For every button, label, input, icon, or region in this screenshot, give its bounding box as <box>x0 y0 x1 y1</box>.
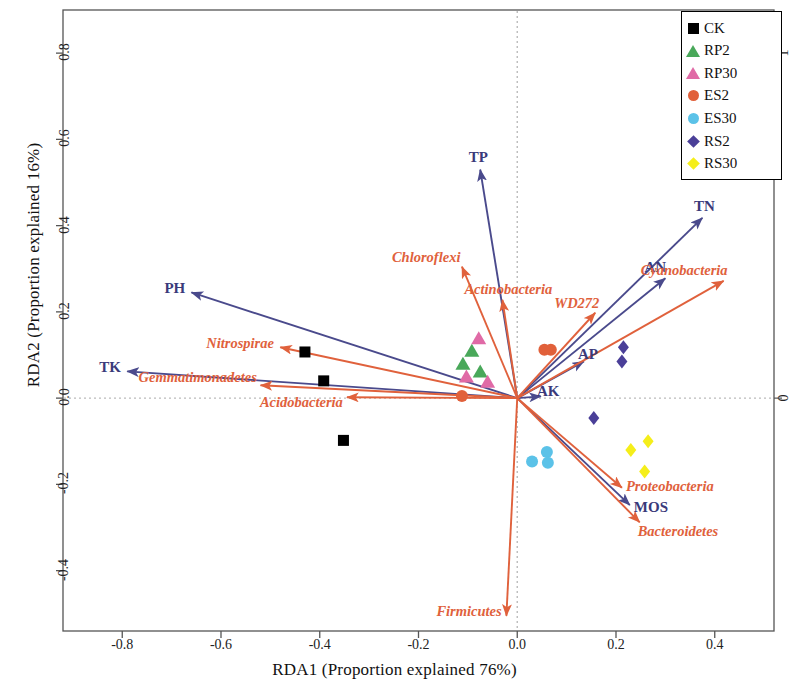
y-tick-label: 0.2 <box>56 302 72 320</box>
species-vector-label-bacteroidetes: Bacteroidetes <box>638 523 719 540</box>
species-vector-label-wd272: WD272 <box>554 295 599 312</box>
legend-marker-circle-icon <box>686 90 700 101</box>
species-vector-label-cyanobacteria: Cyanobacteria <box>641 262 728 279</box>
sample-point-rp2 <box>455 357 470 370</box>
sample-point-es2 <box>456 390 468 402</box>
sample-point-rp30 <box>471 331 486 344</box>
species-vector-label-nitrospirae: Nitrospirae <box>206 335 274 352</box>
sample-point-ck <box>299 346 310 357</box>
species-vector-label-gemmatimonadetes: Gemmatimonadetes <box>139 369 257 386</box>
species-vector-label-actinobacteria: Actinobacteria <box>464 281 552 298</box>
legend-item-rp30[interactable]: RP30 <box>686 62 737 84</box>
legend-item-es30[interactable]: ES30 <box>686 107 737 129</box>
legend-marker-triangle-icon <box>686 45 700 57</box>
rda-plot-canvas <box>0 0 789 695</box>
sample-point-rp2 <box>464 344 479 357</box>
sample-point-rs2 <box>588 411 599 425</box>
species-vector-label-acidobacteria: Acidobacteria <box>260 394 343 411</box>
env-vector-label-tk: TK <box>99 359 121 376</box>
legend-label: ES30 <box>704 111 737 126</box>
sample-point-rp30 <box>459 370 474 383</box>
y-tick-label: 0.8 <box>56 43 72 61</box>
x-axis-title: RDA1 (Proportion explained 76%) <box>0 660 789 680</box>
species-vector-label-chloroflexi: Chloroflexi <box>392 249 460 266</box>
sample-point-ck <box>338 435 349 446</box>
x-tick-label: -0.4 <box>309 637 331 653</box>
sample-point-rp2 <box>473 364 488 377</box>
env-vector-label-mos: MOS <box>634 499 668 516</box>
x-tick-label: -0.8 <box>111 637 133 653</box>
legend-marker-triangle-icon <box>686 67 700 79</box>
y-tick-label: 0.6 <box>56 130 72 148</box>
sample-point-rs30 <box>639 464 650 478</box>
sample-point-es30 <box>541 446 553 458</box>
y-tick-label: 0.4 <box>56 216 72 234</box>
legend-label: RP30 <box>704 66 737 81</box>
x-tick-label: -0.2 <box>407 637 429 653</box>
sample-point-rs30 <box>643 434 654 448</box>
sample-point-es2 <box>545 344 557 356</box>
sample-point-ck <box>318 375 329 386</box>
env-vector-label-ak: AK <box>537 383 560 400</box>
y-tick-label: -0.4 <box>56 559 72 581</box>
biplot-vectors <box>127 170 723 616</box>
legend-item-rs2[interactable]: RS2 <box>686 130 730 152</box>
legend-label: ES2 <box>704 88 729 103</box>
legend-marker-diamond-icon <box>686 159 700 168</box>
legend[interactable]: CKRP2RP30ES2ES30RS2RS30 <box>681 11 782 180</box>
sample-point-es30 <box>542 457 554 469</box>
legend-label: RS2 <box>704 134 730 149</box>
env-vector-label-ph: PH <box>164 280 185 297</box>
env-vector-label-tn: TN <box>694 198 715 215</box>
sample-point-rs30 <box>625 443 636 457</box>
env-vector-label-ap: AP <box>578 346 598 363</box>
y-tick-label: 0.0 <box>56 388 72 406</box>
x-tick-label: 0.4 <box>706 637 724 653</box>
legend-marker-square-icon <box>686 23 700 34</box>
legend-label: CK <box>704 21 725 36</box>
env-vector-label-tp: TP <box>469 149 488 166</box>
legend-marker-diamond-icon <box>686 137 700 146</box>
species-vector-label-firmicutes: Firmicutes <box>436 603 501 620</box>
sample-point-rs2 <box>616 354 627 368</box>
rda-ordination-plot: RDA1 (Proportion explained 76%) RDA2 (Pr… <box>0 0 789 695</box>
x-tick-label: 0.0 <box>509 637 527 653</box>
species-vector-label-proteobacteria: Proteobacteria <box>626 478 714 495</box>
legend-label: RP2 <box>704 43 730 58</box>
sample-point-es30 <box>526 456 538 468</box>
y-tick-label: -0.2 <box>56 472 72 494</box>
sample-point-rs2 <box>618 340 629 354</box>
legend-label: RS30 <box>704 156 737 171</box>
x-tick-label: 0.2 <box>607 637 625 653</box>
legend-item-ck[interactable]: CK <box>686 17 725 39</box>
legend-marker-circle-icon <box>686 113 700 124</box>
right-axis-tick-label: 0 <box>776 395 789 402</box>
sample-points <box>299 331 653 478</box>
x-tick-label: -0.6 <box>210 637 232 653</box>
legend-item-rs30[interactable]: RS30 <box>686 153 737 175</box>
y-axis-title: RDA2 (Proportion explained 16%) <box>24 50 44 480</box>
legend-item-rp2[interactable]: RP2 <box>686 40 730 62</box>
axis-ticks <box>56 53 782 638</box>
legend-item-es2[interactable]: ES2 <box>686 85 729 107</box>
